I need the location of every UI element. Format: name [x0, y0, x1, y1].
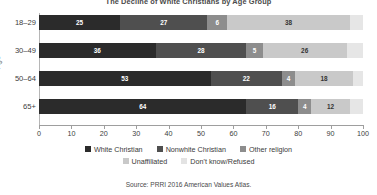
x-axis-tick-label: 0 — [26, 129, 52, 138]
bar-segment: 25 — [39, 15, 120, 30]
bar-segment: 26 — [263, 43, 347, 58]
plot-area: 2527638 3628526 5322418 6416412 — [39, 13, 363, 124]
bar-segment: 53 — [39, 71, 211, 86]
x-axis-tick — [363, 125, 364, 129]
chart-figure: The Decline of White Christians by Age G… — [0, 0, 377, 195]
legend-swatch-icon — [181, 158, 187, 164]
x-axis-tick-label: 80 — [285, 129, 311, 138]
x-axis-tick — [169, 125, 170, 129]
category-label-30-49: 30–49 — [0, 43, 36, 58]
bar-segment: 18 — [295, 71, 353, 86]
bar-segment — [350, 15, 363, 30]
x-axis-tick-label: 40 — [156, 129, 182, 138]
bar-segment — [353, 71, 363, 86]
x-axis-tick-label: 100 — [350, 129, 376, 138]
bar-segment: 28 — [156, 43, 247, 58]
legend-item-label: Nonwhite Christian — [166, 145, 226, 154]
legend-item-label: Other religion — [249, 145, 292, 154]
bar-segment: 4 — [298, 99, 311, 114]
legend-item[interactable]: Don't know/Refused — [181, 157, 254, 166]
bar-segment: 16 — [246, 99, 298, 114]
legend-item-label: Don't know/Refused — [190, 157, 254, 166]
bar-segment: 36 — [39, 43, 156, 58]
category-label-50-64: 50–64 — [0, 71, 36, 86]
x-axis-tick-label: 90 — [318, 129, 344, 138]
x-axis-tick — [39, 125, 40, 129]
bar-segment: 6 — [207, 15, 226, 30]
legend-swatch-icon — [85, 146, 91, 152]
chart-title: The Decline of White Christians by Age G… — [0, 0, 377, 6]
bar-segment: 27 — [120, 15, 207, 30]
legend-item[interactable]: Unaffiliated — [123, 157, 168, 166]
bar-segment: 5 — [246, 43, 262, 58]
bar-row: 3628526 — [39, 43, 363, 58]
x-axis-tick-label: 30 — [123, 129, 149, 138]
x-axis-tick-label: 10 — [58, 129, 84, 138]
x-axis-tick-label: 50 — [188, 129, 214, 138]
bar-segment: 4 — [282, 71, 295, 86]
bar-row: 6416412 — [39, 99, 363, 114]
bar-segment — [347, 43, 363, 58]
legend-item-label: White Christian — [94, 145, 143, 154]
x-axis-tick — [136, 125, 137, 129]
x-axis-tick-label: 60 — [220, 129, 246, 138]
x-axis-tick — [331, 125, 332, 129]
x-axis-tick-label: 20 — [91, 129, 117, 138]
bar-segment: 12 — [311, 99, 350, 114]
bar-segment: 38 — [227, 15, 350, 30]
x-axis-tick — [298, 125, 299, 129]
legend-item-label: Unaffiliated — [132, 157, 168, 166]
chart-legend: White ChristianNonwhite ChristianOther r… — [0, 143, 377, 167]
bar-row: 5322418 — [39, 71, 363, 86]
bar-segment: 64 — [39, 99, 246, 114]
legend-row-primary: White ChristianNonwhite ChristianOther r… — [0, 143, 377, 155]
x-axis-tick — [266, 125, 267, 129]
x-axis-tick — [201, 125, 202, 129]
legend-swatch-icon — [240, 146, 246, 152]
legend-item[interactable]: Other religion — [240, 145, 292, 154]
legend-item[interactable]: Nonwhite Christian — [157, 145, 226, 154]
x-axis-tick — [71, 125, 72, 129]
bar-segment — [350, 99, 363, 114]
x-axis-tick — [233, 125, 234, 129]
category-label-65-plus: 65+ — [0, 99, 36, 114]
bar-row: 2527638 — [39, 15, 363, 30]
bar-segment: 22 — [211, 71, 282, 86]
legend-row-secondary: UnaffiliatedDon't know/Refused — [0, 155, 377, 167]
legend-swatch-icon — [123, 158, 129, 164]
legend-item[interactable]: White Christian — [85, 145, 143, 154]
x-axis-tick — [104, 125, 105, 129]
legend-swatch-icon — [157, 146, 163, 152]
category-label-18-29: 18–29 — [0, 15, 36, 30]
x-axis-tick-label: 70 — [253, 129, 279, 138]
source-note: Source: PRRI 2016 American Values Atlas. — [0, 181, 377, 188]
